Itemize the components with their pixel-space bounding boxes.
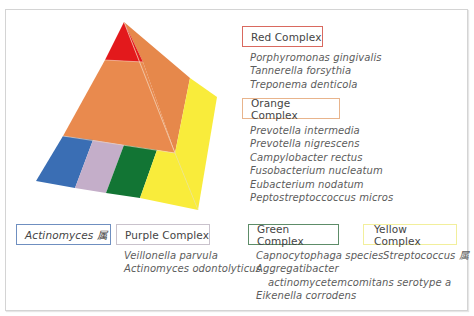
species-item: Prevotella intermedia xyxy=(250,124,393,137)
species-item: Actinomyces odontolyticus xyxy=(124,262,261,275)
species-item: Campylobacter rectus xyxy=(250,151,393,164)
orange-complex-species: Prevotella intermedia Prevotella nigresc… xyxy=(250,124,393,204)
species-item: Peptostreptoccoccus micros xyxy=(250,191,393,204)
actinomyces-label: Actinomyces 属 xyxy=(16,224,111,245)
purple-complex-species: Veillonella parvula Actinomyces odontoly… xyxy=(124,249,261,276)
orange-complex-label: Orange Complex xyxy=(242,98,340,119)
species-item: Porphyromonas gingivalis xyxy=(250,51,382,64)
species-item: Tannerella forsythia xyxy=(250,64,382,77)
species-item: Eikenella corrodens xyxy=(256,289,451,302)
purple-complex-label: Purple Complex xyxy=(116,224,210,245)
species-item: actinomycetemcomitans serotype a xyxy=(256,276,451,289)
species-item: Streptococcus 属 xyxy=(383,249,469,262)
species-item: Veillonella parvula xyxy=(124,249,261,262)
yellow-complex-label: Yellow Complex xyxy=(363,224,457,245)
species-item: Eubacterium nodatum xyxy=(250,178,393,191)
species-item: Aggregatibacter xyxy=(256,262,451,275)
green-complex-label: Green Complex xyxy=(248,224,339,245)
species-item: Treponema denticola xyxy=(250,78,382,91)
yellow-complex-species: Streptococcus 属 xyxy=(383,249,469,262)
species-item: Prevotella nigrescens xyxy=(250,137,393,150)
red-complex-species: Porphyromonas gingivalis Tannerella fors… xyxy=(250,51,382,91)
red-complex-label: Red Complex xyxy=(242,26,323,47)
species-item: Fusobacterium nucleatum xyxy=(250,164,393,177)
